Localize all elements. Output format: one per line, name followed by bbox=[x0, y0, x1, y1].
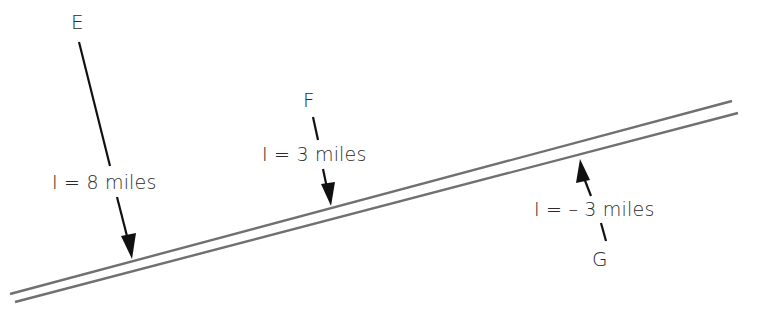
offset-label-g: I = – 3 miles bbox=[534, 200, 655, 219]
diagram-graphics bbox=[0, 0, 775, 315]
arrowhead-up-icon bbox=[576, 159, 590, 183]
offset-label-e: I = 8 miles bbox=[52, 173, 157, 192]
arrowhead-down-icon bbox=[121, 233, 136, 259]
point-label-e: E bbox=[71, 12, 84, 32]
point-label-g: G bbox=[592, 249, 608, 269]
diagram-canvas: E F G I = 8 miles I = 3 miles I = – 3 mi… bbox=[0, 0, 775, 315]
arrow-e bbox=[79, 42, 136, 259]
offset-label-f: I = 3 miles bbox=[262, 145, 367, 164]
arrowhead-down-icon bbox=[321, 182, 335, 206]
point-label-f: F bbox=[303, 90, 315, 110]
